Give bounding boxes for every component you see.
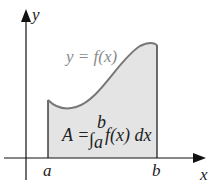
formula-lhs: A = <box>61 125 89 145</box>
curve-label: y = f(x) <box>64 47 117 66</box>
bound-a-label: a <box>43 161 52 180</box>
x-axis-label: x <box>199 165 208 184</box>
y-axis-label: y <box>30 5 40 24</box>
area-diagram: y x a b y = f(x) A = ∫ b a f(x) dx <box>0 0 218 188</box>
bound-b-label: b <box>152 161 161 180</box>
integrand: f(x) dx <box>105 125 151 146</box>
x-axis-arrow-icon <box>193 153 206 163</box>
lower-limit: a <box>94 132 103 152</box>
y-axis-arrow-icon <box>21 9 31 22</box>
